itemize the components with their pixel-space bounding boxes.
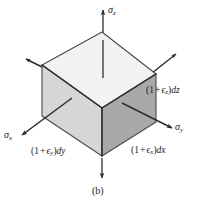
dx-differential: dx — [157, 145, 166, 155]
arrow-sigma-y-upright — [152, 54, 176, 73]
figure-container: σz σx σy (1+ϵz)dz (1+ϵx)dx (1+ϵy)dy (b) — [0, 0, 203, 205]
cube-diagram-svg — [0, 0, 203, 205]
dx-operator: + — [139, 145, 147, 155]
label-dimension-dz: (1+ϵz)dz — [146, 86, 180, 96]
figure-caption: (b) — [92, 185, 104, 196]
label-sigma-y: σy — [175, 122, 183, 134]
dz-operator: + — [154, 85, 162, 95]
label-sigma-z: σz — [108, 5, 116, 17]
dy-open: (1 — [31, 146, 39, 156]
label-dimension-dy: (1+ϵy)dy — [31, 147, 66, 157]
sigma-z-subscript: z — [113, 9, 116, 17]
sigma-x-subscript: x — [9, 134, 12, 142]
dy-differential: dy — [57, 146, 66, 156]
label-dimension-dx: (1+ϵx)dx — [131, 146, 166, 156]
dx-open: (1 — [131, 145, 139, 155]
dy-operator: + — [39, 146, 47, 156]
dz-differential: dz — [171, 85, 179, 95]
label-sigma-x: σx — [4, 130, 12, 142]
dz-open: (1 — [146, 85, 154, 95]
sigma-y-subscript: y — [180, 126, 183, 134]
